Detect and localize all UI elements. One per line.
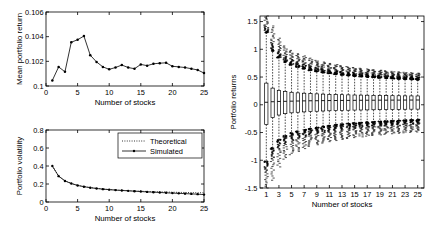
data-point (184, 66, 187, 69)
data-point (70, 41, 73, 44)
svg-text:-1.5: -1.5 (245, 184, 258, 193)
svg-text:0.106: 0.106 (25, 8, 44, 17)
box (296, 93, 299, 112)
data-point (127, 66, 130, 69)
box-group (308, 58, 314, 146)
svg-text:10: 10 (105, 204, 113, 213)
box-group (320, 62, 326, 143)
figure-root: 05101520250.10.1020.1040.106Number of st… (0, 0, 434, 236)
axes-frame: 135791113151719212325-1.5-1-0.500.511.5N… (229, 16, 424, 209)
svg-text:0: 0 (44, 204, 48, 213)
data-point (171, 65, 174, 68)
svg-text:1.5: 1.5 (247, 17, 257, 26)
box (366, 95, 369, 110)
series-volatility (51, 165, 205, 196)
box (391, 96, 394, 110)
svg-text:25: 25 (200, 204, 208, 213)
box (309, 94, 312, 112)
box-group (314, 60, 320, 144)
svg-text:5: 5 (76, 88, 80, 97)
box-group (339, 66, 345, 140)
data-point (196, 193, 198, 195)
data-point (171, 192, 173, 194)
data-point (83, 186, 85, 188)
box-group (263, 16, 269, 188)
svg-text:15: 15 (350, 190, 358, 199)
data-point (57, 175, 59, 177)
box-group (415, 73, 421, 132)
data-point (190, 193, 192, 195)
data-point (133, 190, 135, 192)
box (315, 94, 318, 111)
chart-portfolio-volatility: 051015202500.20.40.60.8Number of stocksP… (0, 116, 218, 236)
box (359, 95, 362, 110)
data-point (70, 182, 72, 184)
box (340, 95, 343, 111)
data-point (102, 188, 104, 190)
box (334, 95, 337, 111)
data-point (51, 79, 54, 82)
box (290, 92, 293, 113)
svg-text:0.104: 0.104 (25, 32, 44, 41)
box-group (396, 72, 402, 133)
box-group (371, 70, 377, 136)
box-group (295, 54, 301, 152)
svg-text:5: 5 (76, 204, 80, 213)
data-point (64, 71, 67, 74)
svg-text:0: 0 (44, 88, 48, 97)
legend: TheoreticalSimulated (118, 133, 202, 158)
data-point (89, 186, 91, 188)
svg-text:0.102: 0.102 (25, 57, 44, 66)
box (303, 93, 306, 112)
theoretical-curve (52, 166, 204, 193)
svg-text:Portfolio volatility: Portfolio volatility (15, 137, 24, 196)
svg-text:20: 20 (168, 204, 176, 213)
svg-text:13: 13 (338, 190, 346, 199)
data-point (159, 62, 162, 65)
svg-text:25: 25 (200, 88, 208, 97)
boxplot-series (263, 16, 420, 188)
box-group (289, 50, 295, 154)
svg-text:15: 15 (137, 204, 145, 213)
data-point (140, 63, 143, 66)
data-point (152, 191, 154, 193)
svg-text:5: 5 (289, 190, 293, 199)
chart-mean-portfolio-return: 05101520250.10.1020.1040.106Number of st… (0, 0, 218, 116)
svg-text:20: 20 (168, 88, 176, 97)
data-point (165, 62, 168, 65)
svg-text:Number of stocks: Number of stocks (312, 200, 373, 209)
data-point (95, 61, 98, 64)
svg-text:10: 10 (105, 88, 113, 97)
data-point (146, 191, 148, 193)
box (347, 95, 350, 110)
box (378, 95, 381, 109)
svg-text:1: 1 (264, 190, 268, 199)
data-point (95, 187, 97, 189)
box-group (402, 72, 408, 132)
svg-text:9: 9 (315, 190, 319, 199)
svg-text:0.1: 0.1 (33, 82, 43, 91)
axes-frame: 05101520250.10.1020.1040.106Number of st… (15, 8, 208, 107)
box (277, 90, 280, 115)
box-group (352, 67, 358, 137)
box (416, 96, 419, 109)
svg-text:25: 25 (414, 190, 422, 199)
svg-text:-1: -1 (251, 156, 258, 165)
svg-text:3: 3 (277, 190, 281, 199)
svg-text:11: 11 (326, 190, 334, 199)
box-group (377, 70, 383, 135)
legend-label-simulated: Simulated (150, 147, 183, 156)
data-point (127, 190, 129, 192)
data-point (177, 66, 180, 69)
data-point (146, 64, 149, 67)
mean-return-svg: 05101520250.10.1020.1040.106Number of st… (0, 0, 218, 116)
box-group (333, 65, 339, 141)
svg-text:Portfolio returns: Portfolio returns (229, 74, 238, 129)
data-point (102, 66, 105, 69)
data-point (121, 64, 124, 67)
svg-text:Mean portfolio return: Mean portfolio return (15, 13, 24, 85)
data-point (165, 192, 167, 194)
box-group (282, 46, 288, 159)
box-group (364, 69, 370, 136)
data-point (196, 69, 199, 72)
